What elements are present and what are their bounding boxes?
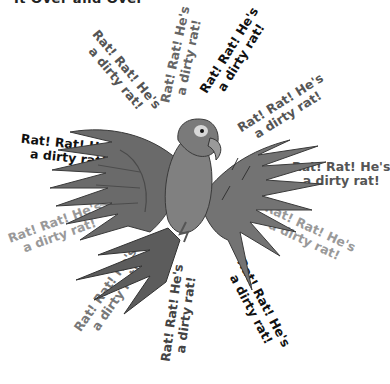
tail-feathers <box>76 228 180 314</box>
left-wing <box>50 130 179 240</box>
right-wing <box>200 140 326 290</box>
eye-icon <box>200 129 204 133</box>
